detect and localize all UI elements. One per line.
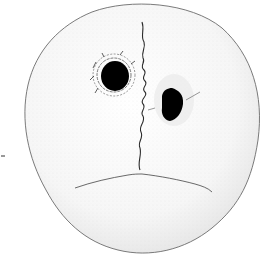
illustration-canvas	[0, 0, 272, 263]
skull-drawing	[0, 0, 272, 263]
